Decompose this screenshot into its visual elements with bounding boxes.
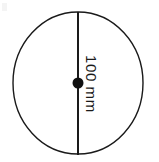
center-dot <box>73 78 84 89</box>
diagram-canvas: 100 mm <box>0 0 159 162</box>
circle-diagram-svg <box>0 0 159 162</box>
